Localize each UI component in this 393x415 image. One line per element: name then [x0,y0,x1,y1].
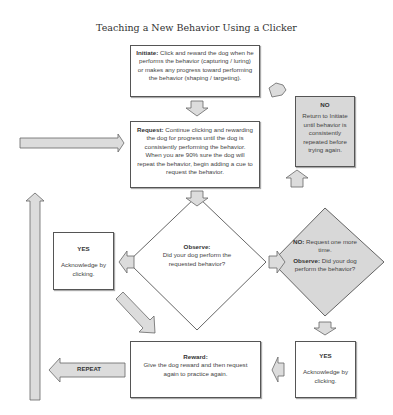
no-text: Return to Initiate until behavior is con… [299,112,351,154]
arrow-up-icon [286,170,308,187]
reward-label: Reward: [139,353,252,361]
yes-right-text: Acknowledge by clicking. [299,368,352,385]
arrow-up-icon [26,193,44,400]
observe-text-block: Observe: Did your dog perform the reques… [162,243,232,268]
arrow-diagonal-icon [116,292,155,333]
no-observe-label2: Observe: [293,257,320,264]
reward-box: Reward: Give the dog reward and then req… [130,341,261,398]
arrow-right-icon [20,134,124,152]
no-observe-text1: Request one more time. [304,238,357,253]
arrow-left-icon [119,251,134,273]
arrow-up-left-icon [269,83,286,97]
initiate-label: Initiate: [136,49,158,56]
arrow-left-icon [272,357,284,382]
reward-text: Give the dog reward and then request aga… [139,361,252,378]
no-observe-label1: NO: [293,238,304,245]
request-box: Request: Continue clicking and rewarding… [130,121,260,188]
no-label: NO [299,101,351,109]
no-observe-text-block: NO: Request one more time. Observe: Did … [290,238,360,274]
yes-right-label: YES [299,352,352,360]
observe-text: Did your dog perform the requested behav… [162,251,232,268]
observe-label: Observe: [162,243,232,251]
yes-left-text: Acknowledge by clicking. [57,261,110,278]
request-text: Continue clicking and rewarding the dog … [137,126,253,175]
repeat-label: REPEAT [64,366,114,372]
arrow-down-icon [186,101,208,116]
arrow-down-icon [314,322,336,335]
no-box: NO Return to Initiate until behavior is … [295,96,355,167]
yes-right-box: YES Acknowledge by clicking. [295,341,356,398]
yes-left-box: YES Acknowledge by clicking. [53,232,114,290]
yes-left-label: YES [57,245,110,253]
initiate-box: Initiate: Click and reward the dog when … [130,45,260,97]
request-label: Request: [137,126,163,133]
